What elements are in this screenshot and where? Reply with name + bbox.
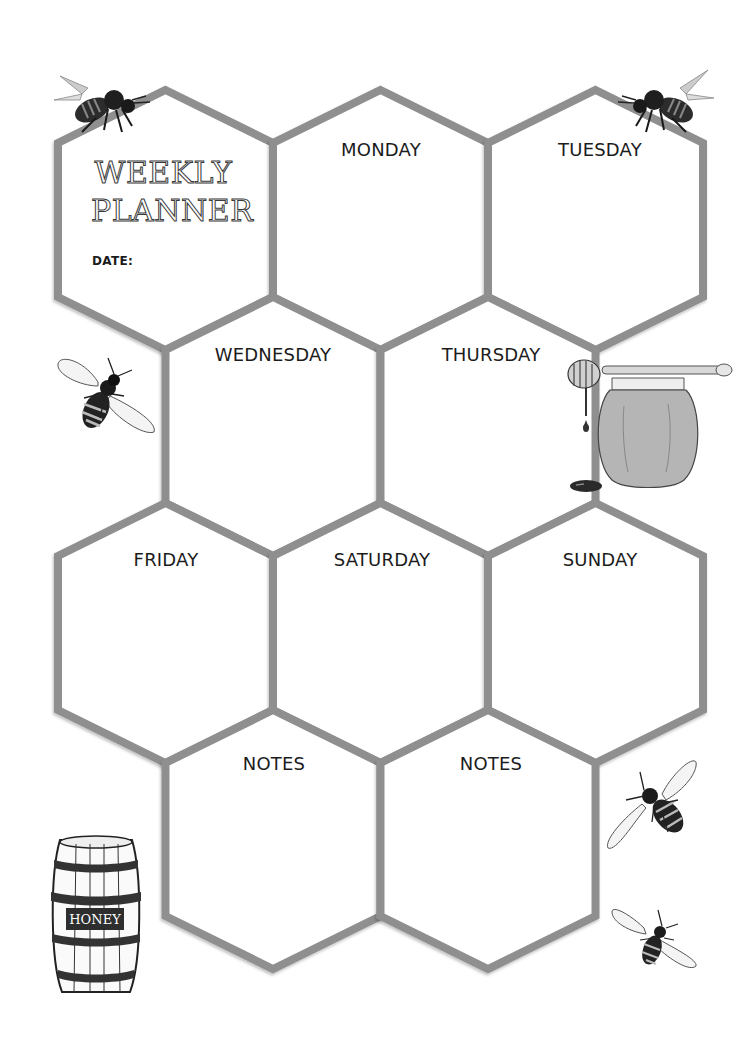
date-label: DATE: [92,254,133,268]
label-wednesday: WEDNESDAY [215,344,332,365]
honey-barrel-icon: HONEY [46,834,146,1000]
label-saturday: SATURDAY [334,549,430,570]
label-notes-2: NOTES [460,753,522,774]
bee-top-left-icon [52,66,152,142]
label-friday: FRIDAY [134,549,199,570]
bee-bottom-right-2-icon [610,902,702,972]
label-thursday: THURSDAY [442,344,541,365]
label-tuesday: TUESDAY [558,139,642,160]
barrel-label: HONEY [69,912,121,927]
label-sunday: SUNDAY [563,549,638,570]
label-monday: MONDAY [341,139,421,160]
honey-jar-icon [564,356,736,496]
weekly-planner-page: WEEKLY PLANNER DATE: MONDAY TUESDAY WEDN… [0,0,746,1052]
hex-notes-2[interactable] [381,710,596,969]
bee-bottom-right-1-icon [606,756,698,856]
planner-title-weekly: WEEKLY [91,158,236,188]
label-notes-1: NOTES [243,753,305,774]
bee-top-right-icon [616,66,716,142]
bee-left-icon [54,352,160,436]
planner-title-planner: PLANNER [91,196,236,226]
hex-notes-1[interactable] [166,710,381,969]
